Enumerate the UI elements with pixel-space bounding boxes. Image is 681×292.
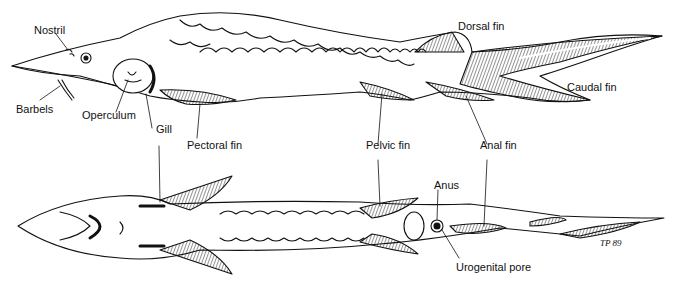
label-anus: Anus [434, 180, 459, 191]
label-pelvic-fin: Pelvic fin [366, 140, 410, 151]
label-nostril: Nostril [34, 25, 65, 36]
label-dorsal-fin: Dorsal fin [458, 21, 504, 32]
lateral-view [12, 13, 662, 105]
artist-signature: TP 89 [600, 238, 622, 248]
label-anal-fin: Anal fin [480, 140, 517, 151]
label-pectoral-fin: Pectoral fin [187, 140, 242, 151]
sturgeon-diagram: TP 89 Nostril Barbels Operculum Gill Pec… [0, 0, 681, 292]
ventral-view [18, 176, 664, 274]
label-operculum: Operculum [82, 110, 136, 121]
label-urogenital-pore: Urogenital pore [456, 262, 531, 273]
label-caudal-fin: Caudal fin [567, 82, 617, 93]
label-barbels: Barbels [16, 104, 53, 115]
fish-illustration: TP 89 [0, 0, 681, 292]
label-gill: Gill [156, 124, 172, 135]
